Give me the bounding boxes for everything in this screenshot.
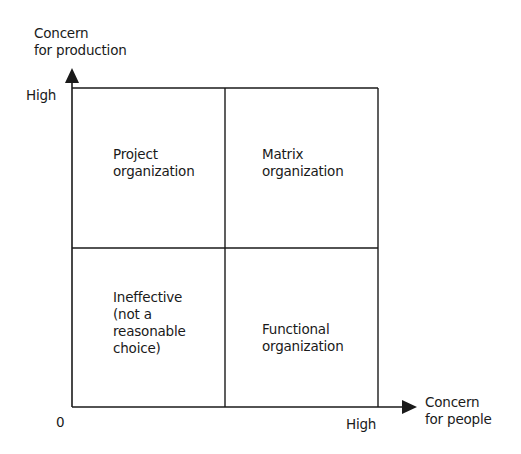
origin-label: 0 (56, 414, 64, 431)
quadrant-text: Ineffective (113, 289, 186, 306)
quadrant-top-left: Project organization (113, 146, 195, 180)
quadrant-text: organization (113, 163, 195, 180)
quadrant-text: reasonable (113, 323, 186, 340)
quadrant-text: choice) (113, 340, 186, 357)
quadrant-text: organization (262, 163, 344, 180)
quadrant-text: Functional (262, 321, 344, 338)
y-axis-high-label: High (26, 87, 56, 104)
axes-and-grid (0, 0, 521, 454)
y-axis-label-line1: Concern (34, 25, 127, 42)
y-axis-label-line2: for production (34, 42, 127, 59)
x-axis-high-label: High (346, 416, 376, 433)
quadrant-top-right: Matrix organization (262, 146, 344, 180)
x-axis-arrow-icon (402, 400, 417, 414)
quadrant-text: organization (262, 338, 344, 355)
quadrant-bottom-right: Functional organization (262, 321, 344, 355)
x-axis-label: Concern for people (425, 394, 492, 428)
quadrant-text: Matrix (262, 146, 344, 163)
x-axis-label-line2: for people (425, 411, 492, 428)
y-axis-arrow-icon (65, 68, 79, 83)
y-axis-label: Concern for production (34, 25, 127, 59)
quadrant-text: (not a (113, 306, 186, 323)
quadrant-bottom-left: Ineffective (not a reasonable choice) (113, 289, 186, 357)
quadrant-text: Project (113, 146, 195, 163)
x-axis-label-line1: Concern (425, 394, 492, 411)
